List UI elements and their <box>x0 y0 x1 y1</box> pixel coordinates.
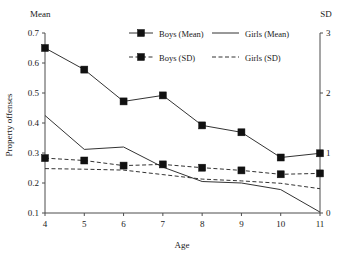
data-point-marker <box>199 122 206 129</box>
left-tick-label: 0.4 <box>28 118 40 128</box>
x-tick-label: 8 <box>200 219 205 229</box>
data-point-marker <box>42 45 49 52</box>
data-point-marker <box>317 170 324 177</box>
series-line-boys-mean <box>45 48 320 158</box>
left-tick-label: 0.7 <box>28 28 40 38</box>
right-axis-corner-label: SD <box>320 9 332 19</box>
right-tick-label: 1 <box>326 148 331 158</box>
data-point-marker <box>277 171 284 178</box>
data-point-marker <box>238 167 245 174</box>
left-axis-corner-label: Mean <box>30 9 51 19</box>
legend-label-boys-sd: Boys (SD) <box>159 53 195 63</box>
left-tick-label: 0.1 <box>28 208 39 218</box>
data-point-marker <box>317 150 324 157</box>
x-axis-title: Age <box>175 240 190 250</box>
legend-marker-boys-mean <box>138 30 145 37</box>
left-tick-label: 0.3 <box>28 148 40 158</box>
data-point-marker <box>42 155 49 162</box>
legend-marker-boys-sd <box>138 54 145 61</box>
data-point-marker <box>199 164 206 171</box>
right-tick-label: 2 <box>326 88 331 98</box>
data-point-marker <box>159 92 166 99</box>
chart-svg: Mean SD Property offenses Age 0.10.20.30… <box>0 0 351 255</box>
series-layer <box>42 45 324 213</box>
x-tick-label: 5 <box>82 219 87 229</box>
data-point-marker <box>120 162 127 169</box>
x-axis-ticks: 4567891011 <box>43 213 325 229</box>
legend-label-girls-mean: Girls (Mean) <box>245 29 289 39</box>
data-point-marker <box>277 154 284 161</box>
data-point-marker <box>238 129 245 136</box>
left-tick-label: 0.5 <box>28 88 40 98</box>
data-point-marker <box>81 157 88 164</box>
property-offenses-chart: Mean SD Property offenses Age 0.10.20.30… <box>0 0 351 255</box>
right-tick-label: 3 <box>326 28 331 38</box>
x-tick-label: 9 <box>239 219 244 229</box>
left-tick-label: 0.2 <box>28 178 39 188</box>
left-tick-label: 0.6 <box>28 58 40 68</box>
x-tick-label: 7 <box>161 219 166 229</box>
x-tick-label: 4 <box>43 219 48 229</box>
data-point-marker <box>159 161 166 168</box>
data-point-marker <box>120 98 127 105</box>
x-tick-label: 6 <box>121 219 126 229</box>
x-tick-label: 10 <box>276 219 286 229</box>
chart-legend: Boys (Mean) Girls (Mean) Boys (SD) Girls… <box>129 29 289 63</box>
y-axis-title: Property offenses <box>4 93 14 157</box>
data-point-marker <box>81 66 88 73</box>
x-tick-label: 11 <box>316 219 325 229</box>
right-tick-label: 0 <box>326 208 331 218</box>
legend-label-boys-mean: Boys (Mean) <box>159 29 204 39</box>
right-axis-ticks: 0123 <box>320 28 331 218</box>
left-axis-ticks: 0.10.20.30.40.50.60.7 <box>28 28 45 218</box>
legend-label-girls-sd: Girls (SD) <box>245 53 281 63</box>
